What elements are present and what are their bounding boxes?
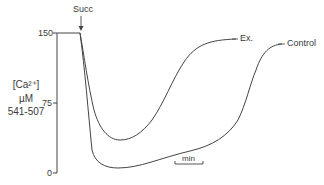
succ-label: Succ: [73, 5, 93, 14]
ex-curve: [80, 33, 236, 140]
ex-label: Ex.: [240, 34, 253, 43]
tick-label-150: 150: [38, 29, 53, 38]
y-label-unit: µM: [6, 94, 46, 105]
y-label-ion: [Ca²⁺]: [6, 80, 46, 91]
tick-label-0: 0: [47, 169, 52, 178]
control-label: Control: [287, 39, 316, 48]
y-label-code: 541-507: [6, 107, 46, 118]
min-label: min: [182, 155, 195, 163]
control-curve: [80, 33, 282, 168]
succ-arrow-icon: [79, 26, 84, 31]
y-axis-label: [Ca²⁺] µM 541-507: [6, 80, 46, 118]
